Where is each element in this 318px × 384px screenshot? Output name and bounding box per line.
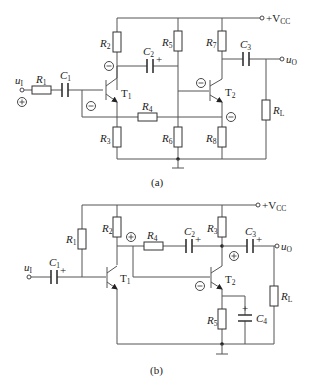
resistor-rl-b [270, 286, 278, 306]
svg-text:+: + [195, 233, 201, 245]
svg-text:T1: T1 [120, 272, 131, 286]
resistor-r1-a [32, 86, 51, 94]
resistor-r2-a [113, 32, 121, 52]
svg-text:+: + [60, 264, 66, 276]
resistor-r5-a [174, 31, 182, 51]
circuit-b: +VCC uI C1 + R1 R2 T1 R4 C2 + [24, 199, 293, 377]
resistor-r7-a [218, 31, 226, 51]
svg-text:+: + [156, 53, 162, 65]
svg-text:C1: C1 [49, 256, 60, 270]
svg-text:uO: uO [286, 53, 298, 67]
svg-text:C2: C2 [184, 225, 195, 239]
resistor-r6-a [174, 127, 182, 147]
svg-text:R5: R5 [161, 36, 173, 50]
circuit-a: +VCC R2 C2 + uI R1 C1 T1 [15, 12, 298, 189]
svg-text:R2: R2 [101, 222, 113, 236]
resistor-r1-b [78, 229, 86, 249]
resistor-r3-b [218, 217, 226, 237]
capacitor-c2-b [186, 239, 192, 253]
resistor-r3-a [113, 127, 121, 147]
svg-text:R2: R2 [99, 37, 111, 51]
svg-text:R8: R8 [205, 132, 217, 146]
svg-text:uI: uI [15, 74, 24, 88]
resistor-r4-a [138, 113, 157, 121]
circuit-diagrams: +VCC R2 C2 + uI R1 C1 T1 [0, 0, 318, 384]
resistor-rl-a [262, 100, 270, 120]
svg-text:uI: uI [24, 261, 33, 275]
ground-icon-a [172, 159, 184, 168]
svg-text:T2: T2 [225, 273, 236, 287]
svg-text:R5: R5 [206, 314, 218, 328]
ground-icon-b [216, 344, 228, 354]
svg-text:C2: C2 [143, 45, 154, 59]
svg-text:R1: R1 [35, 73, 47, 87]
svg-text:RL: RL [280, 290, 293, 304]
output-terminal-b [275, 244, 279, 248]
svg-text:C3: C3 [245, 225, 256, 239]
svg-text:C4: C4 [256, 312, 267, 326]
svg-text:RL: RL [272, 104, 285, 118]
resistor-r8-a [218, 127, 226, 147]
capacitor-c2-a [147, 59, 153, 73]
svg-text:R1: R1 [65, 233, 77, 247]
transistor-t1-b [107, 266, 117, 344]
capacitor-c1-a [62, 83, 68, 97]
svg-text:C1: C1 [60, 69, 71, 83]
capacitor-c3-b [247, 239, 253, 253]
caption-a: (a) [151, 176, 164, 189]
transistor-t2-b [211, 266, 222, 296]
svg-text:uO: uO [281, 240, 293, 254]
resistor-r5-b [218, 309, 226, 329]
svg-text:R7: R7 [205, 36, 217, 50]
svg-text:R4: R4 [146, 229, 158, 243]
svg-text:+: + [256, 233, 262, 245]
resistor-r2-b [113, 217, 121, 237]
capacitor-c1-b [51, 270, 57, 284]
vcc-terminal-b [256, 203, 260, 207]
input-terminal-b [27, 275, 31, 279]
svg-text:+: + [242, 302, 248, 314]
capacitor-c4-b [238, 315, 252, 321]
capacitor-c3-a [243, 52, 249, 66]
caption-b: (b) [150, 364, 163, 377]
svg-text:+VCC: +VCC [262, 199, 286, 213]
output-terminal-a [280, 57, 284, 61]
svg-text:R6: R6 [161, 132, 173, 146]
transistor-t1-a [106, 66, 117, 117]
svg-text:R3: R3 [206, 222, 218, 236]
svg-text:C3: C3 [240, 38, 251, 52]
vcc-terminal-a [260, 16, 264, 20]
resistor-r4-b [144, 242, 163, 250]
svg-text:T1: T1 [121, 87, 132, 101]
svg-text:T2: T2 [225, 86, 236, 100]
svg-text:R3: R3 [99, 132, 111, 146]
input-terminal-a [20, 88, 24, 92]
svg-text:R4: R4 [141, 100, 153, 114]
vcc-label-a: +VCC [266, 12, 290, 26]
